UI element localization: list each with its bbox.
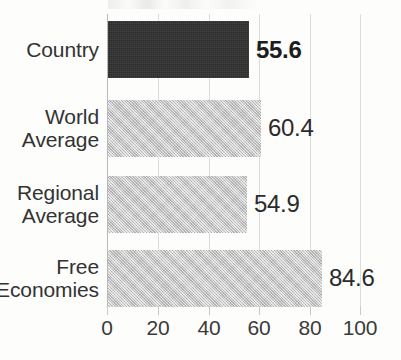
category-label-free-economies: Free Economies: [0, 255, 99, 301]
tickmark-60: [259, 306, 260, 315]
category-label-world-average: World Average: [0, 105, 99, 151]
tickmark-40: [209, 306, 210, 315]
tickmark-0: [107, 306, 108, 315]
tickmark-20: [158, 306, 159, 315]
bar-chart-figure: 0 20 40 60 80 100 Country World Average …: [0, 0, 401, 360]
value-label-world-average: 60.4: [268, 114, 314, 142]
category-label-world-line1: World: [45, 105, 99, 128]
category-label-country: Country: [0, 38, 99, 61]
tickmark-100: [360, 306, 361, 315]
value-label-regional-average: 54.9: [254, 190, 300, 218]
bar-country[interactable]: [108, 21, 249, 78]
category-label-regional-average: Regional Average: [0, 181, 99, 227]
category-label-country-line1: Country: [26, 38, 99, 61]
bar-free-economies[interactable]: [108, 250, 322, 307]
category-label-regional-line1: Regional: [17, 181, 99, 204]
bar-regional-average[interactable]: [108, 176, 247, 233]
category-label-free-line2: Economies: [0, 278, 99, 301]
xtick-label-100: 100: [330, 316, 390, 340]
category-label-world-line2: Average: [22, 128, 99, 151]
plot-area: 0 20 40 60 80 100 Country World Average …: [0, 0, 401, 360]
category-label-free-line1: Free: [56, 255, 99, 278]
tickmark-80: [310, 306, 311, 315]
value-label-free-economies: 84.6: [329, 264, 375, 292]
value-label-country: 55.6: [256, 36, 302, 64]
category-label-regional-line2: Average: [22, 204, 99, 227]
bar-world-average[interactable]: [108, 100, 261, 157]
